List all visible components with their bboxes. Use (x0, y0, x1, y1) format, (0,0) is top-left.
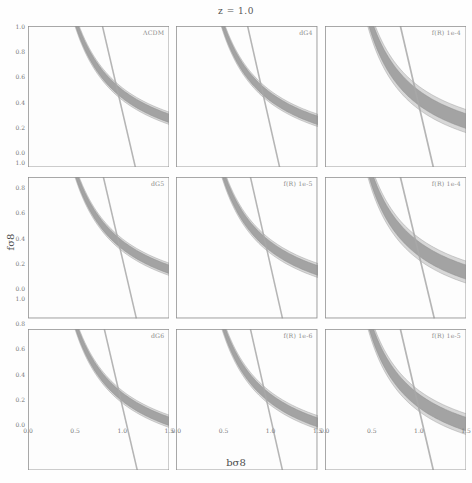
y-tick-label: 0.6 (8, 209, 25, 216)
panel-label: dG6 (151, 332, 164, 339)
x-tick-label: 1.0 (117, 427, 127, 434)
panel-background (325, 329, 466, 470)
y-tick-label: 0.8 (8, 184, 25, 191)
panel-background (176, 329, 317, 470)
contour-panel: f(R) 1e-6 (176, 329, 317, 470)
panel-background (325, 177, 466, 318)
y-tick-label: 0.8 (8, 48, 25, 55)
y-tick-label: 0.0 (8, 285, 25, 292)
panel-label: f(R) 1e-6 (283, 332, 312, 339)
y-tick-label: 0.4 (8, 234, 25, 241)
figure-suptitle: z = 1.0 (0, 6, 472, 16)
y-tick-label: 0.0 (8, 421, 25, 428)
x-tick-label: 0.0 (23, 427, 33, 434)
y-tick-label: 0.6 (8, 345, 25, 352)
y-tick-label: 0.2 (8, 123, 25, 130)
contour-panel: dG5 (28, 177, 169, 318)
x-tick-label: 1.0 (414, 427, 424, 434)
panel-label: dG5 (151, 180, 164, 187)
contour-panel: dG6 (28, 329, 169, 470)
y-tick-label: 0.4 (8, 370, 25, 377)
contour-panel: dG4 (176, 26, 317, 167)
panel-background (28, 26, 169, 167)
x-tick-label: 0.0 (320, 427, 330, 434)
contour-panel: ΛCDM (28, 26, 169, 167)
x-tick-label: 0.5 (70, 427, 80, 434)
y-tick-label: 0.8 (8, 320, 25, 327)
contour-panel: f(R) 1e-5 (176, 177, 317, 318)
panel-label: f(R) 1e-4 (432, 29, 461, 36)
panel-label: f(R) 1e-4 (432, 180, 461, 187)
panel-grid: ΛCDM dG4 f(R) 1e-4 dG5 f(R) 1e-5 f(R) 1e… (28, 26, 466, 424)
y-tick-label: 1.0 (8, 295, 25, 302)
y-tick-label: 1.0 (8, 23, 25, 30)
x-tick-label: 0.5 (367, 427, 377, 434)
panel-label: f(R) 1e-5 (283, 180, 312, 187)
panel-background (28, 329, 169, 470)
contour-panel: f(R) 1e-4 (325, 177, 466, 318)
y-tick-label: 0.6 (8, 73, 25, 80)
panel-label: f(R) 1e-5 (432, 332, 461, 339)
contour-panel: f(R) 1e-5 (325, 329, 466, 470)
panel-background (176, 26, 317, 167)
contour-panel: f(R) 1e-4 (325, 26, 466, 167)
panel-background (325, 26, 466, 167)
x-tick-label: 1.0 (266, 427, 276, 434)
panel-background (176, 177, 317, 318)
figure-canvas: z = 1.0 fσ8 ΛCDM dG4 f(R) 1e-4 dG5 f(R) … (0, 0, 472, 483)
y-tick-label: 0.0 (8, 149, 25, 156)
x-tick-label: 0.0 (172, 427, 182, 434)
x-tick-label: 1.5 (461, 427, 471, 434)
y-tick-label: 0.4 (8, 98, 25, 105)
x-tick-label: 0.5 (219, 427, 229, 434)
panel-label: ΛCDM (143, 29, 164, 36)
panel-label: dG4 (299, 29, 312, 36)
y-tick-label: 0.2 (8, 395, 25, 402)
y-tick-label: 0.2 (8, 259, 25, 266)
panel-background (28, 177, 169, 318)
x-axis-label: bσ8 (0, 457, 472, 468)
y-tick-label: 1.0 (8, 159, 25, 166)
